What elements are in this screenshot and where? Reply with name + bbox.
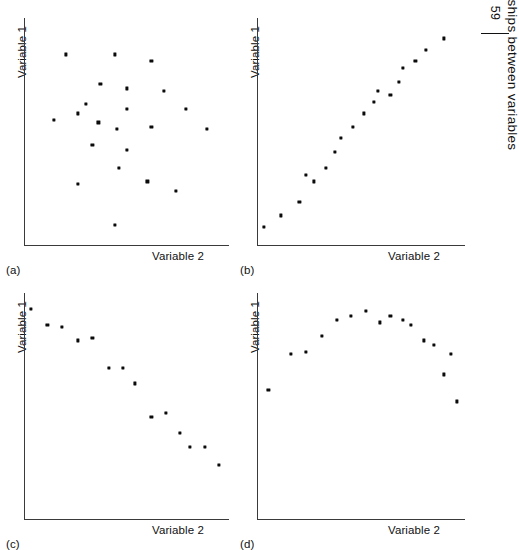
- scatter-panel-d: Variable 1 Variable 2 (d): [240, 275, 475, 549]
- data-point: [352, 125, 355, 128]
- data-point: [46, 323, 49, 326]
- plot-area-d: [258, 293, 465, 519]
- x-axis-label-a: Variable 2: [152, 250, 204, 262]
- data-point: [121, 366, 124, 369]
- data-point: [125, 148, 128, 151]
- data-point: [85, 103, 88, 106]
- data-point: [304, 350, 307, 353]
- data-point: [60, 325, 63, 328]
- data-point: [76, 182, 79, 185]
- data-point: [304, 173, 307, 176]
- data-point: [401, 66, 404, 69]
- data-point: [203, 445, 206, 448]
- data-point: [97, 121, 100, 124]
- x-axis-label-c: Variable 2: [152, 524, 204, 536]
- data-point: [279, 214, 282, 217]
- running-title: Relationships between variables: [498, 0, 519, 163]
- data-point: [174, 189, 177, 192]
- data-point: [350, 314, 353, 317]
- data-point: [189, 445, 192, 448]
- data-point: [443, 37, 446, 40]
- axes-b: [257, 18, 465, 246]
- data-point: [449, 352, 452, 355]
- data-point: [164, 411, 167, 414]
- scatter-panel-b: Variable 1 Variable 2 (b): [240, 0, 475, 275]
- data-point: [263, 225, 266, 228]
- data-point: [115, 128, 118, 131]
- x-axis-label-d: Variable 2: [388, 524, 440, 536]
- data-point: [117, 166, 120, 169]
- axes-d: [257, 293, 465, 520]
- data-point: [455, 400, 458, 403]
- plot-area-c: [25, 293, 229, 519]
- data-point: [205, 128, 208, 131]
- data-point: [150, 125, 153, 128]
- data-point: [30, 307, 33, 310]
- data-point: [290, 352, 293, 355]
- data-point: [376, 89, 379, 92]
- data-point: [125, 107, 128, 110]
- data-point: [372, 100, 375, 103]
- data-point: [76, 112, 79, 115]
- plot-area-a: [25, 18, 229, 245]
- data-point: [150, 60, 153, 63]
- data-point: [401, 319, 404, 322]
- scatter-panel-c: Variable 1 Variable 2 (c): [0, 275, 240, 549]
- data-point: [362, 112, 365, 115]
- data-point: [422, 339, 425, 342]
- data-point: [389, 94, 392, 97]
- data-point: [432, 343, 435, 346]
- data-point: [64, 53, 67, 56]
- data-point: [267, 389, 270, 392]
- data-point: [185, 107, 188, 110]
- data-point: [312, 180, 315, 183]
- data-point: [397, 80, 400, 83]
- data-point: [178, 432, 181, 435]
- data-point: [389, 314, 392, 317]
- data-point: [364, 309, 367, 312]
- data-point: [146, 180, 149, 183]
- running-header: 59 Relationships between variables: [469, 0, 519, 270]
- data-point: [150, 416, 153, 419]
- data-point: [424, 48, 427, 51]
- data-point: [339, 137, 342, 140]
- data-point: [99, 82, 102, 85]
- x-axis-label-b: Variable 2: [388, 250, 440, 262]
- panel-label-c: (c): [6, 538, 20, 550]
- data-point: [217, 463, 220, 466]
- data-point: [162, 89, 165, 92]
- scatter-panel-a: Variable 1 Variable 2 (a): [0, 0, 240, 275]
- data-point: [443, 373, 446, 376]
- data-point: [113, 53, 116, 56]
- data-point: [91, 144, 94, 147]
- data-point: [107, 366, 110, 369]
- data-point: [298, 200, 301, 203]
- data-point: [410, 323, 413, 326]
- data-point: [91, 337, 94, 340]
- axes-a: [24, 18, 229, 246]
- data-point: [414, 60, 417, 63]
- data-point: [325, 166, 328, 169]
- data-point: [333, 150, 336, 153]
- data-point: [113, 223, 116, 226]
- axes-c: [24, 293, 229, 520]
- data-point: [321, 334, 324, 337]
- data-point: [335, 319, 338, 322]
- plot-area-b: [258, 18, 465, 245]
- data-point: [76, 339, 79, 342]
- data-point: [52, 119, 55, 122]
- panel-label-d: (d): [240, 538, 254, 550]
- data-point: [379, 321, 382, 324]
- data-point: [134, 382, 137, 385]
- data-point: [125, 87, 128, 90]
